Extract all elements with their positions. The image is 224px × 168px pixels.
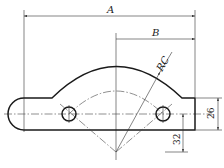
dimension-b: B	[116, 27, 195, 39]
dimension-b-label: B	[151, 27, 159, 38]
dimension-32: 32	[172, 114, 183, 152]
dimension-a-label: A	[106, 4, 114, 15]
dimension-26: 26	[206, 98, 218, 130]
offset-label: 32	[172, 134, 182, 145]
height-label: 26	[206, 107, 216, 119]
dimension-a: A	[24, 4, 195, 16]
part-drawing: A B RC 26 32	[0, 0, 224, 168]
